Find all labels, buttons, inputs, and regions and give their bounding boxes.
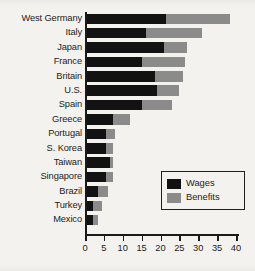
category-label: S. Korea [2,142,82,155]
bar-segment-wages [87,100,142,111]
bar-row: Italy [0,26,255,40]
bar-segment-wages [87,172,106,183]
bar-segment-benefits [106,129,115,140]
x-axis-tick [142,236,144,241]
category-label: Portugal [2,127,82,140]
stacked-bar [87,129,115,140]
category-label: Japan [2,41,82,54]
bar-segment-benefits [166,14,230,25]
category-label: Brazil [2,185,82,198]
x-axis-tick-label: 25 [174,243,184,254]
x-axis-tick-label: 40 [231,243,241,254]
bar-segment-wages [87,129,106,140]
bar-row: Portugal [0,127,255,141]
bar-row: West Germany [0,12,255,26]
bar-row: Japan [0,41,255,55]
x-axis-line [85,234,239,236]
stacked-bar [87,215,98,226]
bar-segment-wages [87,28,146,39]
x-axis-tick-label: 5 [101,243,106,254]
bar-segment-wages [87,42,164,53]
plot-area: West GermanyItalyJapanFranceBritainU.S.S… [0,0,255,271]
bar-segment-wages [87,114,113,125]
bar-row: Spain [0,98,255,112]
x-axis-tick-label: 20 [155,243,165,254]
x-axis-tick [161,236,163,241]
bar-segment-wages [87,85,157,96]
stacked-bar [87,114,130,125]
x-axis-tick [123,236,125,241]
stacked-bar [87,57,185,68]
bar-row: Taiwan [0,156,255,170]
bar-segment-wages [87,71,155,82]
x-axis-tick [104,236,106,241]
bar-segment-benefits [98,186,107,197]
stacked-bar [87,42,187,53]
bar-segment-wages [87,186,98,197]
bar-segment-wages [87,157,110,168]
x-axis-tick-label: 30 [193,243,203,254]
bar-segment-wages [87,143,106,154]
category-label: France [2,55,82,68]
bar-row: Britain [0,70,255,84]
stacked-bar [87,28,202,39]
bar-segment-benefits [93,215,99,226]
legend-label-wages: Wages [186,178,215,189]
x-axis-tick [217,236,219,241]
x-axis-tick-label: 15 [136,243,146,254]
bar-segment-wages [87,14,166,25]
stacked-bar [87,186,108,197]
category-label: Greece [2,113,82,126]
legend-item-benefits: Benefits [167,191,239,204]
x-axis-tick [85,236,87,241]
stacked-bar [87,201,102,212]
category-label: West Germany [2,12,82,25]
category-label: Turkey [2,199,82,212]
x-axis-tick [236,236,238,241]
bar-row: S. Korea [0,142,255,156]
stacked-bar [87,85,179,96]
stacked-bar [87,143,113,154]
bar-row: U.S. [0,84,255,98]
category-label: Spain [2,98,82,111]
x-axis-tick-label: 0 [82,243,87,254]
x-axis-tick-label: 10 [118,243,128,254]
chart-legend: Wages Benefits [161,171,245,210]
bar-segment-benefits [164,42,187,53]
bar-row: Mexico [0,213,255,227]
category-label: Mexico [2,213,82,226]
bar-segment-benefits [110,157,114,168]
category-label: Singapore [2,170,82,183]
category-label: Taiwan [2,156,82,169]
x-axis-tick-label: 35 [212,243,222,254]
bar-segment-benefits [157,85,180,96]
bar-segment-benefits [142,57,185,68]
bar-segment-benefits [113,114,130,125]
stacked-bar-chart: West GermanyItalyJapanFranceBritainU.S.S… [0,0,255,271]
stacked-bar [87,157,113,168]
stacked-bar [87,172,113,183]
bar-segment-benefits [93,201,102,212]
legend-label-benefits: Benefits [186,192,220,203]
stacked-bar [87,14,230,25]
bar-segment-benefits [106,143,114,154]
bar-segment-benefits [142,100,172,111]
benefits-swatch-icon [167,193,181,203]
category-label: Britain [2,70,82,83]
x-axis-tick [179,236,181,241]
bar-segment-benefits [155,71,183,82]
legend-item-wages: Wages [167,177,239,190]
x-axis-tick [198,236,200,241]
bar-segment-benefits [106,172,114,183]
category-label: U.S. [2,84,82,97]
bar-row: France [0,55,255,69]
wages-swatch-icon [167,179,181,189]
bar-row: Greece [0,113,255,127]
bar-segment-wages [87,57,142,68]
category-label: Italy [2,26,82,39]
bar-segment-benefits [146,28,203,39]
stacked-bar [87,100,172,111]
stacked-bar [87,71,183,82]
